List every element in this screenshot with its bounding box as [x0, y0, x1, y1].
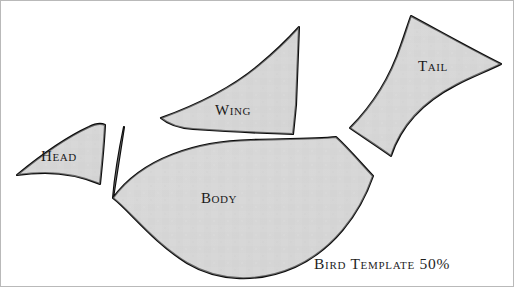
- tail-label: Tail: [418, 58, 448, 74]
- piece-tail[interactable]: Tail: [350, 16, 501, 156]
- head-label: Head: [41, 148, 77, 164]
- wing-label: Wing: [215, 102, 251, 118]
- template-canvas: Head Wing Body Tail Bird Template 50%: [1, 1, 514, 287]
- body-label: Body: [201, 190, 237, 206]
- bird-template-figure: Head Wing Body Tail Bird Template 50%: [0, 0, 514, 287]
- figure-caption: Bird Template 50%: [314, 255, 450, 272]
- tail-outline[interactable]: [350, 16, 501, 156]
- piece-wing[interactable]: Wing: [161, 27, 299, 134]
- piece-head[interactable]: Head: [17, 124, 105, 184]
